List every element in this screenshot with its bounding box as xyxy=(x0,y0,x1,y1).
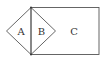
region-label-a: A xyxy=(16,26,25,37)
region-label-c: C xyxy=(70,26,78,37)
region-label-b: B xyxy=(38,26,45,37)
top-vertex-dot xyxy=(30,7,32,9)
geometric-diagram: A B C xyxy=(0,0,105,65)
bottom-vertex-dot xyxy=(30,54,32,56)
